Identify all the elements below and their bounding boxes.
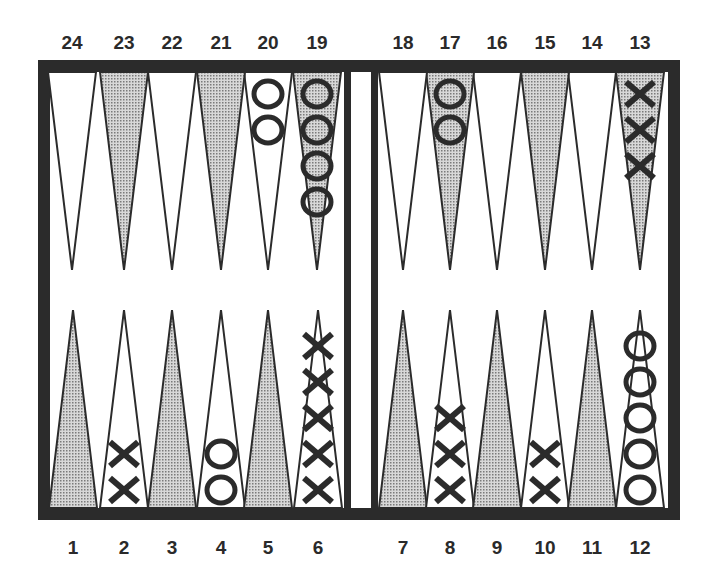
point-label-6: 6 [313,537,324,559]
point-label-20: 20 [257,32,278,54]
point-label-10: 10 [534,537,555,559]
point-label-19: 19 [306,32,327,54]
point-label-8: 8 [445,537,456,559]
point-label-3: 3 [167,537,178,559]
point-label-15: 15 [534,32,555,54]
point-label-13: 13 [629,32,650,54]
point-label-17: 17 [439,32,460,54]
point-label-23: 23 [113,32,134,54]
point-label-2: 2 [119,537,130,559]
point-label-22: 22 [161,32,182,54]
point-label-24: 24 [61,32,82,54]
backgammon-board [0,0,712,583]
point-label-7: 7 [398,537,409,559]
point-label-12: 12 [629,537,650,559]
point-label-4: 4 [216,537,227,559]
point-label-5: 5 [263,537,274,559]
point-label-18: 18 [392,32,413,54]
point-label-11: 11 [582,537,602,559]
point-label-14: 14 [581,32,602,54]
point-label-9: 9 [492,537,503,559]
point-label-21: 21 [210,32,231,54]
bar-left-rail [344,72,351,508]
point-label-1: 1 [68,537,79,559]
point-label-16: 16 [486,32,507,54]
bar-right-rail [371,72,378,508]
